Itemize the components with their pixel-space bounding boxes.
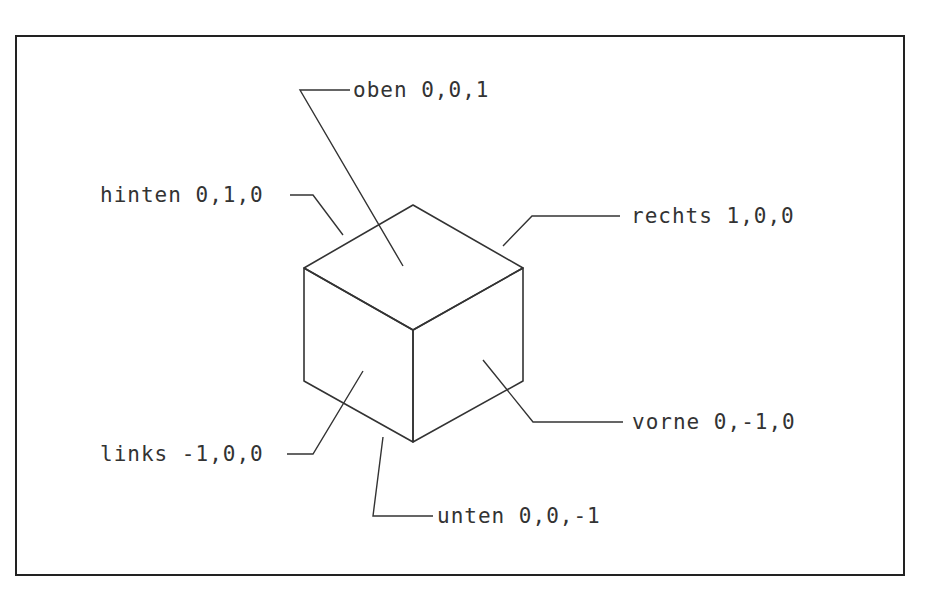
leader-links	[287, 371, 363, 454]
leader-hinten	[290, 195, 343, 235]
cube-front-face	[413, 268, 523, 442]
label-hinten: hinten 0,1,0	[100, 183, 264, 207]
leader-oben	[300, 90, 403, 266]
label-links: links -1,0,0	[100, 442, 264, 466]
label-oben: oben 0,0,1	[353, 78, 489, 102]
cube-top-face	[304, 205, 523, 330]
diagram-frame	[16, 36, 904, 575]
cube-diagram: oben 0,0,1 hinten 0,1,0 rechts 1,0,0 vor…	[0, 0, 932, 605]
label-rechts: rechts 1,0,0	[631, 204, 795, 228]
label-unten: unten 0,0,-1	[437, 504, 601, 528]
isometric-cube	[304, 205, 523, 442]
label-vorne: vorne 0,-1,0	[632, 410, 796, 434]
cube-left-face	[304, 268, 413, 442]
leader-unten	[373, 437, 433, 516]
leader-rechts	[503, 216, 620, 246]
